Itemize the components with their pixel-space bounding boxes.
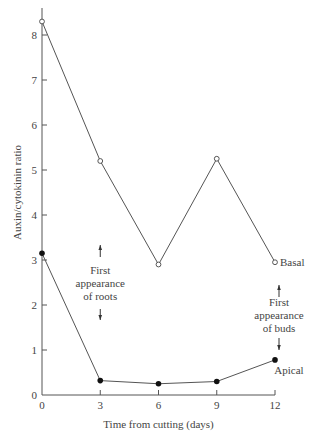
x-tick-label: 12 <box>270 399 281 411</box>
y-tick-label: 3 <box>32 254 38 266</box>
buds-up-arrow-icon-head <box>277 285 281 290</box>
data-point <box>156 262 161 267</box>
roots-down-arrow-icon-head <box>98 315 102 320</box>
series-label-basal: Basal <box>280 256 304 268</box>
x-tick-label: 9 <box>214 399 220 411</box>
roots-annotation-text: First <box>90 264 110 276</box>
data-point <box>214 156 219 161</box>
series-line-basal <box>42 22 275 265</box>
x-axis-label: Time from cutting (days) <box>103 418 214 431</box>
data-point <box>97 378 103 384</box>
y-tick-label: 7 <box>32 74 38 86</box>
y-tick-label: 2 <box>32 299 38 311</box>
series-line-apical <box>42 253 275 384</box>
axes: 012345678036912Time from cutting (days)A… <box>11 8 281 431</box>
series-label-apical: Apical <box>274 364 303 376</box>
data-point <box>39 250 45 256</box>
buds-annotation-text: appearance <box>254 309 304 321</box>
buds-annotation-text: of buds <box>263 322 296 334</box>
y-axis-label: Auxin/cytokinin ratio <box>11 144 23 240</box>
y-tick-label: 1 <box>32 344 38 356</box>
y-tick-label: 8 <box>32 29 38 41</box>
y-tick-label: 6 <box>32 119 38 131</box>
y-tick-label: 0 <box>32 389 38 401</box>
buds-annotation-text: First <box>269 296 289 308</box>
y-tick-label: 4 <box>32 209 38 221</box>
x-tick-label: 3 <box>98 399 104 411</box>
data-point <box>40 19 45 24</box>
data-point <box>273 260 278 265</box>
data-point <box>214 379 220 385</box>
y-tick-label: 5 <box>32 164 38 176</box>
data-point <box>272 357 278 363</box>
x-tick-label: 0 <box>39 399 45 411</box>
data-point <box>156 381 162 387</box>
roots-up-arrow-icon-head <box>98 245 102 250</box>
x-tick-label: 6 <box>156 399 162 411</box>
auxin-cytokinin-chart: 012345678036912Time from cutting (days)A… <box>0 0 315 433</box>
buds-down-arrow-icon-head <box>277 345 281 350</box>
data-point <box>98 159 103 164</box>
annotations: Firstappearanceof rootsFirstappearanceof… <box>76 245 304 350</box>
roots-annotation-text: of roots <box>83 290 117 302</box>
roots-annotation-text: appearance <box>76 277 126 289</box>
